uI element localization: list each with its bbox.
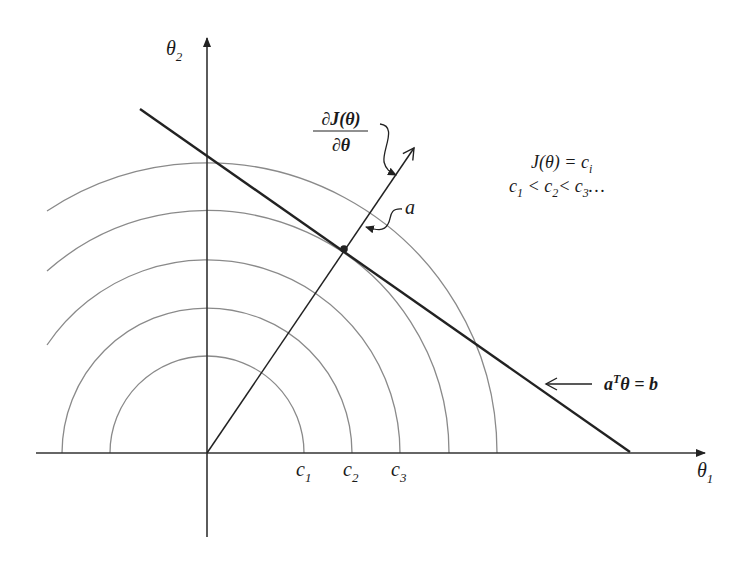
contour-c3 (47, 260, 400, 453)
theta1-label: θ1 (697, 459, 713, 486)
legend-line2: c1 < c2< c3… (509, 176, 605, 200)
tangent-point (340, 245, 348, 253)
contour-arcs (47, 163, 497, 453)
contour-c5 (47, 163, 497, 453)
gradient-denominator: ∂θ (332, 135, 351, 155)
gradient-numerator: ∂J(θ) (321, 109, 360, 130)
vector-a-label: a (405, 196, 415, 218)
gradient-label: ∂J(θ) ∂θ (313, 109, 368, 155)
optimization-diagram: θ2 θ1 c1 c2 c3 J(θ) = ci c1 < c2< c3… ∂J… (0, 0, 755, 565)
gradient-label-pointer (380, 124, 396, 175)
legend-line1: J(θ) = ci (531, 152, 592, 176)
c3-label: c3 (391, 458, 407, 485)
c2-label: c2 (343, 458, 359, 485)
constraint-label: aTθ = b (604, 372, 658, 394)
theta2-label: θ2 (166, 37, 183, 64)
c1-label: c1 (296, 458, 311, 485)
contour-c4 (47, 211, 449, 453)
gradient-vector (207, 148, 414, 453)
